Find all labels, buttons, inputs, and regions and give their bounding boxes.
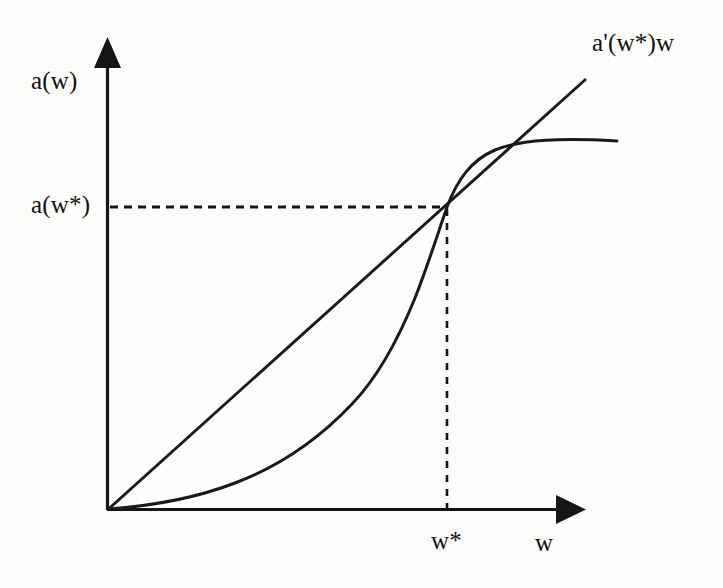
- x-axis-label: w: [535, 530, 553, 555]
- y-value-label-a-w-star: a(w*): [31, 192, 90, 217]
- y-axis-label: a(w): [31, 68, 78, 93]
- figure-container: a(w) a(w*) a'(w*)w w* w: [0, 0, 723, 588]
- y-axis-arrowhead-icon: [94, 37, 121, 68]
- curve-a-of-w: [109, 140, 617, 509]
- figure-canvas: [0, 0, 723, 588]
- tangent-line-label: a'(w*)w: [592, 30, 674, 55]
- x-axis-arrowhead-icon: [556, 495, 586, 524]
- x-star-tick-label: w*: [431, 528, 462, 553]
